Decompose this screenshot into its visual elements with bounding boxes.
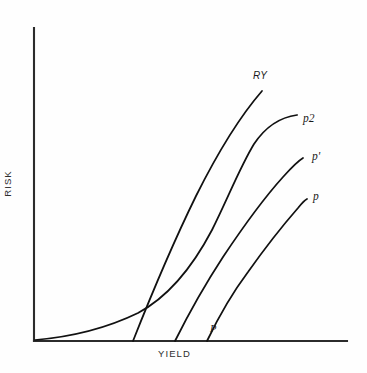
curve-label-ry: RY — [253, 70, 267, 81]
x-axis-title: YIELD — [158, 348, 191, 359]
curve-p — [207, 199, 307, 341]
curve-p-prime — [175, 158, 303, 341]
curve-p2 — [35, 115, 297, 340]
curve-label-p: p — [313, 190, 319, 202]
curve-label-p-prime: p' — [312, 150, 320, 162]
y-axis-title: RISK — [2, 170, 13, 197]
plot-area — [0, 0, 367, 373]
curve-label-p2: p2 — [303, 112, 315, 124]
risk-yield-figure: YIELD RISK RY p2 p' p P — [0, 0, 367, 373]
curve-label-p-base: P — [210, 323, 216, 334]
